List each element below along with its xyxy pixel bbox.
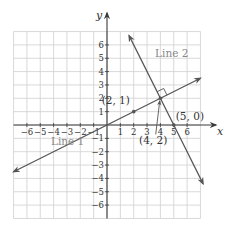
y-tick-label: 1	[99, 107, 104, 117]
x-axis-label: x	[217, 125, 224, 138]
y-axis-label: y	[95, 9, 103, 22]
y-tick-label: 3	[99, 80, 104, 90]
point-dot	[172, 123, 176, 127]
y-tick-label: 6	[99, 40, 104, 50]
x-tick-label: −6	[21, 127, 34, 137]
line-label-2: Line 2	[155, 47, 188, 59]
x-tick-label: −5	[34, 127, 47, 137]
point-label: (4, 2)	[139, 134, 167, 146]
line-label-1: Line 1	[51, 135, 84, 147]
point-dot	[159, 97, 163, 101]
y-tick-label: −5	[91, 187, 104, 197]
point-dot	[132, 110, 136, 114]
y-tick-label: 4	[99, 67, 104, 77]
x-tick-label: 1	[118, 127, 123, 137]
y-tick-label: −3	[91, 160, 104, 170]
point-label: (5, 0)	[176, 110, 204, 122]
y-tick-label: −6	[91, 200, 104, 210]
y-tick-label: −4	[91, 173, 104, 183]
x-tick-label: 2	[131, 127, 136, 137]
coordinate-plane: xy −6−5−4−3−2−1123456−6−5−4−3−2−1123456 …	[0, 0, 228, 230]
y-tick-label: −2	[91, 147, 104, 157]
y-tick-label: −1	[91, 133, 104, 143]
coordinate-plane-figure: xy −6−5−4−3−2−1123456−6−5−4−3−2−1123456 …	[0, 0, 228, 230]
x-tick-label: 6	[184, 127, 189, 137]
point-label: (2, 1)	[102, 94, 130, 106]
y-tick-label: 5	[99, 53, 104, 63]
